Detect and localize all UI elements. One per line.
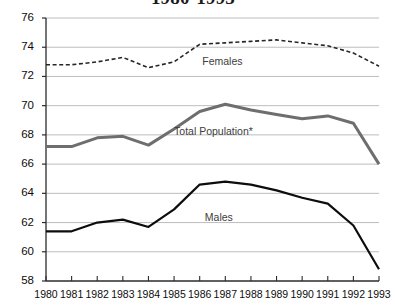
y-tick-label-66: 66 — [8, 158, 34, 169]
x-tick-label-1993: 1993 — [363, 289, 395, 300]
series-line-males — [46, 182, 379, 270]
x-tick-marks-group — [46, 276, 379, 281]
y-tick-label-72: 72 — [8, 70, 34, 81]
y-tick-label-76: 76 — [8, 12, 34, 23]
series-label-females: Females — [202, 56, 242, 67]
y-tick-label-64: 64 — [8, 187, 34, 198]
series-label-males: Males — [205, 212, 233, 223]
y-tick-label-62: 62 — [8, 217, 34, 228]
y-tick-label-60: 60 — [8, 246, 34, 257]
y-tick-label-68: 68 — [8, 129, 34, 140]
y-tick-label-74: 74 — [8, 41, 34, 52]
y-tick-label-70: 70 — [8, 100, 34, 111]
series-label-total-population: Total Population* — [174, 126, 253, 137]
data-series-group — [46, 40, 379, 269]
y-tick-label-58: 58 — [8, 275, 34, 286]
